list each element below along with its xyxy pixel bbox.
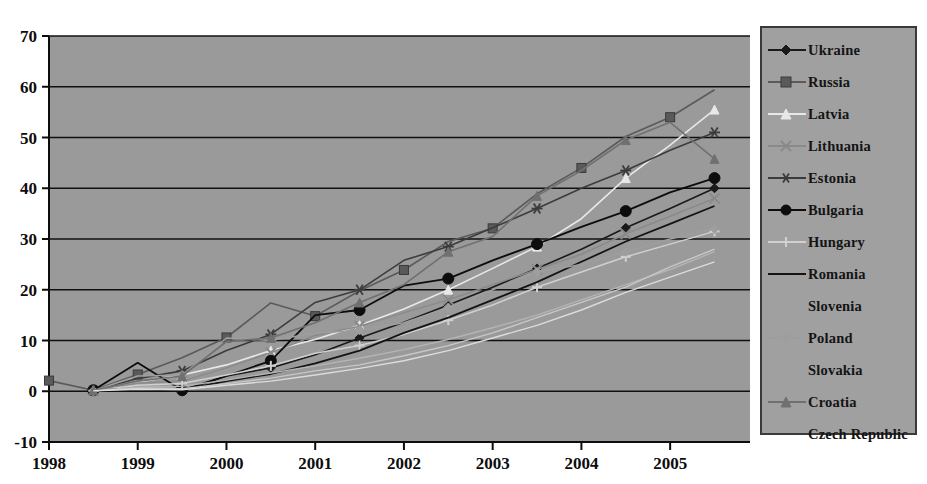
legend-item-romania[interactable]: Romania (762, 258, 915, 290)
legend-item-label: Russia (808, 74, 850, 91)
x-tick-label: 2000 (209, 454, 243, 473)
legend-item-poland[interactable]: Poland (762, 322, 915, 354)
legend-marker-plus-icon (766, 232, 808, 252)
data-point-marker (781, 333, 791, 343)
data-point-marker (781, 141, 791, 151)
legend-item-label: Bulgaria (808, 202, 864, 219)
data-point-marker (709, 173, 720, 184)
y-tick-label: 10 (20, 332, 37, 351)
legend-item-label: Slovakia (808, 362, 863, 379)
data-point-marker (45, 376, 54, 385)
x-tick-label: 2004 (564, 454, 599, 473)
x-tick-label: 1999 (121, 454, 155, 473)
data-point-marker (781, 237, 791, 247)
legend-item-label: Hungary (808, 234, 865, 251)
chart-legend: UkraineRussiaLatviaLithuaniaEstoniaBulga… (760, 26, 917, 435)
y-tick-label: 40 (20, 179, 37, 198)
data-point-marker (781, 77, 791, 87)
x-tick-label: 2002 (387, 454, 421, 473)
legend-marker-icon (779, 75, 793, 89)
legend-marker-icon (779, 171, 793, 185)
x-tick-label: 1998 (32, 454, 66, 473)
y-tick-label: 20 (20, 281, 37, 300)
y-tick-label: 30 (20, 230, 37, 249)
y-tick-label: 0 (29, 382, 38, 401)
legend-line-swatch (768, 273, 806, 275)
legend-item-lithuania[interactable]: Lithuania (762, 130, 915, 162)
legend-item-slovakia[interactable]: Slovakia (762, 354, 915, 386)
legend-item-label: Slovenia (808, 298, 862, 315)
legend-item-label: Romania (808, 266, 866, 283)
legend-item-label: Czech Republic (808, 426, 908, 443)
x-tick-label: 2001 (298, 454, 332, 473)
y-tick-label: 50 (20, 129, 37, 148)
data-point-marker (620, 206, 631, 217)
y-tick-label: -10 (14, 433, 37, 452)
legend-item-label: Croatia (808, 394, 857, 411)
legend-item-latvia[interactable]: Latvia (762, 98, 915, 130)
chart-container: -100102030405060701998199920002001200220… (0, 0, 927, 484)
legend-marker-icon (779, 203, 793, 217)
legend-item-russia[interactable]: Russia (762, 66, 915, 98)
legend-marker-icon (779, 331, 793, 345)
x-tick-label: 2005 (653, 454, 687, 473)
x-tick-label: 2003 (476, 454, 510, 473)
legend-marker-square-icon (766, 72, 808, 92)
legend-marker-triangle-icon (766, 392, 808, 412)
legend-marker-none-icon (766, 424, 808, 444)
y-axis: -10010203040506070 (14, 27, 49, 452)
data-point-marker (443, 273, 454, 284)
legend-marker-x-icon (766, 136, 808, 156)
legend-marker-none-icon (766, 264, 808, 284)
legend-marker-diamond-icon (766, 328, 808, 348)
legend-item-label: Poland (808, 330, 853, 347)
legend-item-croatia[interactable]: Croatia (762, 386, 915, 418)
legend-item-bulgaria[interactable]: Bulgaria (762, 194, 915, 226)
legend-marker-icon (779, 395, 793, 409)
legend-marker-diamond-icon (766, 40, 808, 60)
legend-marker-icon (779, 43, 793, 57)
legend-marker-icon (779, 235, 793, 249)
legend-item-estonia[interactable]: Estonia (762, 162, 915, 194)
y-tick-label: 60 (20, 78, 37, 97)
legend-marker-none-icon (766, 360, 808, 380)
data-point-marker (666, 113, 675, 122)
legend-marker-asterisk-icon (766, 168, 808, 188)
x-axis: 19981999200020012002200320042005 (32, 442, 687, 473)
legend-item-slovenia[interactable]: Slovenia (762, 290, 915, 322)
y-tick-label: 70 (20, 27, 37, 46)
legend-item-label: Lithuania (808, 138, 871, 155)
legend-item-label: Estonia (808, 170, 856, 187)
legend-item-label: Ukraine (808, 42, 860, 59)
legend-item-ukraine[interactable]: Ukraine (762, 34, 915, 66)
legend-marker-icon (779, 107, 793, 121)
legend-item-hungary[interactable]: Hungary (762, 226, 915, 258)
legend-item-label: Latvia (808, 106, 849, 123)
data-point-marker (781, 174, 791, 183)
legend-marker-icon (779, 139, 793, 153)
data-point-marker (781, 397, 791, 407)
data-point-marker (781, 109, 791, 119)
data-point-marker (532, 239, 543, 250)
data-point-marker (399, 265, 408, 274)
legend-item-czech-republic[interactable]: Czech Republic (762, 418, 915, 450)
legend-marker-none-icon (766, 296, 808, 316)
legend-marker-circle-icon (766, 200, 808, 220)
legend-marker-triangle-icon (766, 104, 808, 124)
data-point-marker (781, 205, 791, 215)
data-point-marker (781, 45, 791, 55)
